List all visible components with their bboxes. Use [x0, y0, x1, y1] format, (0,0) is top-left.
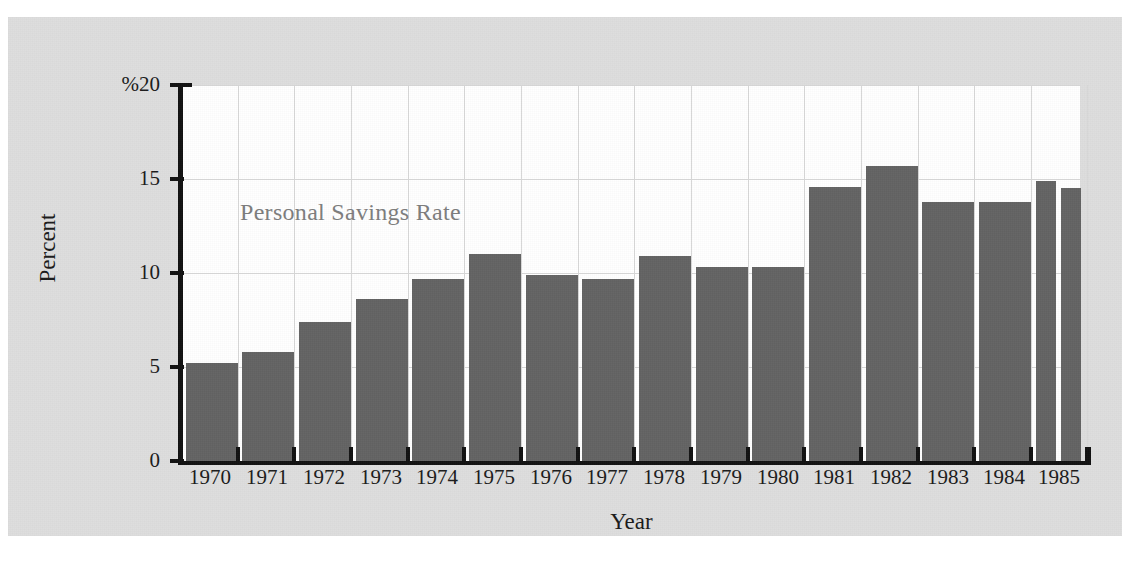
x-tick-mark	[406, 447, 410, 465]
x-tick-label-1985: 1985	[1019, 467, 1099, 488]
x-tick-mark	[349, 447, 353, 465]
figure-panel: 051015%20 197019711972197319741975197619…	[8, 17, 1122, 536]
x-tick-mark	[802, 447, 806, 465]
x-axis-title: Year	[183, 509, 1080, 535]
x-tick-mark	[632, 447, 636, 465]
x-tick-mark	[859, 447, 863, 465]
x-tick-mark	[462, 447, 466, 465]
series-annotation-label: Personal Savings Rate	[240, 199, 461, 226]
x-tick-mark	[292, 447, 296, 465]
x-tick-mark	[236, 447, 240, 465]
x-tick-mark	[179, 447, 183, 465]
x-tick-mark	[519, 447, 523, 465]
x-tick-mark	[972, 447, 976, 465]
x-tick-mark	[916, 447, 920, 465]
x-tick-mark	[1029, 447, 1033, 465]
x-tick-mark	[576, 447, 580, 465]
x-tick-mark	[689, 447, 693, 465]
y-axis-title: Percent	[35, 168, 61, 328]
chart-figure: 051015%20 197019711972197319741975197619…	[0, 0, 1141, 561]
x-ticks: 1970197119721973197419751976197719781979…	[8, 17, 1122, 536]
x-tick-mark	[1085, 447, 1089, 465]
x-tick-mark	[746, 447, 750, 465]
